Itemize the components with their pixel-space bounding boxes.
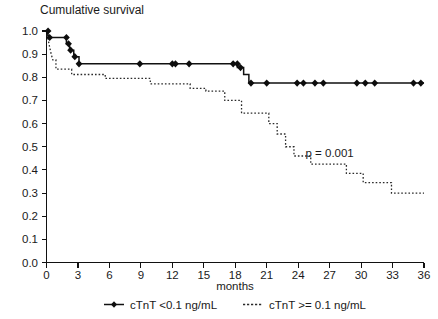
- x-tick-label: 9: [138, 269, 144, 281]
- x-tick-label: 36: [418, 269, 431, 281]
- x-tick-label: 27: [323, 269, 336, 281]
- y-tick-label: 0.6: [22, 118, 38, 130]
- y-tick-label: 0.0: [22, 257, 38, 269]
- legend-diamond-icon: [111, 301, 117, 308]
- survival-chart-figure: Cumulative survival 0.00.10.20.30.40.50.…: [0, 0, 438, 319]
- x-tick-label: 6: [106, 269, 112, 281]
- x-tick-label: 3: [75, 269, 81, 281]
- x-tick-label: 21: [260, 269, 273, 281]
- censor-markers: [45, 27, 425, 86]
- survival-curve-ctnt-high: [47, 31, 425, 193]
- y-tick-label: 0.7: [22, 94, 38, 106]
- page-title: Cumulative survival: [40, 3, 144, 17]
- censor-diamond-icon: [186, 60, 193, 67]
- legend-item-ctnt-low: cTnT <0.1 ng/mL: [130, 299, 218, 311]
- censor-diamond-icon: [136, 60, 143, 67]
- y-tick-label: 0.8: [22, 71, 38, 83]
- censor-diamond-icon: [320, 79, 327, 86]
- y-tick-label: 0.5: [22, 141, 38, 153]
- censor-diamond-icon: [362, 79, 369, 86]
- censor-diamond-icon: [263, 79, 270, 86]
- censor-diamond-icon: [353, 79, 360, 86]
- x-axis-ticks: 0369121518212427303336: [43, 263, 430, 282]
- chart-legend: cTnT <0.1 ng/mL cTnT >= 0.1 ng/mL: [104, 299, 367, 311]
- p-value-annotation: p = 0.001: [305, 147, 353, 159]
- censor-diamond-icon: [300, 79, 307, 86]
- censor-diamond-icon: [417, 79, 424, 86]
- kaplan-meier-plot: Cumulative survival 0.00.10.20.30.40.50.…: [0, 0, 438, 319]
- x-axis-label: months: [216, 280, 254, 292]
- y-tick-label: 0.9: [22, 48, 38, 60]
- x-tick-label: 24: [292, 269, 305, 281]
- censor-diamond-icon: [71, 53, 78, 60]
- censor-diamond-icon: [45, 27, 52, 34]
- x-tick-label: 15: [197, 269, 210, 281]
- censor-diamond-icon: [63, 34, 70, 41]
- censor-diamond-icon: [312, 79, 319, 86]
- censor-diamond-icon: [410, 79, 417, 86]
- y-tick-label: 0.3: [22, 187, 38, 199]
- y-tick-label: 0.2: [22, 210, 38, 222]
- survival-curve-ctnt-low: [47, 31, 425, 83]
- censor-diamond-icon: [76, 60, 83, 67]
- legend-item-ctnt-high: cTnT >= 0.1 ng/mL: [269, 299, 367, 311]
- y-tick-label: 0.1: [22, 233, 38, 245]
- y-tick-label: 1.0: [22, 25, 38, 37]
- censor-diamond-icon: [294, 79, 301, 86]
- y-axis-ticks: 0.00.10.20.30.40.50.60.70.80.91.0: [22, 25, 47, 269]
- x-tick-label: 30: [355, 269, 368, 281]
- censor-diamond-icon: [67, 47, 74, 54]
- x-tick-label: 12: [166, 269, 179, 281]
- chart-annotations: p = 0.001: [305, 147, 353, 159]
- x-tick-label: 33: [386, 269, 399, 281]
- y-tick-label: 0.4: [22, 164, 39, 176]
- censor-diamond-icon: [371, 79, 378, 86]
- x-tick-label: 0: [43, 269, 49, 281]
